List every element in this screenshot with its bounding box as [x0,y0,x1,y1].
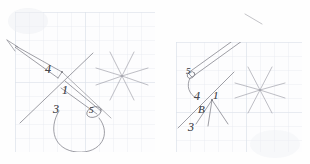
stroke-large-loop [54,111,105,152]
right-graph-panel: 5 4 1 B 3 [176,42,302,152]
overflow-needle-tail-right [245,14,262,24]
stroke-spike-lower-edge [61,88,97,114]
stroke-diagonal-rising-r [178,72,234,128]
right-sketch-strokes [176,42,302,152]
stroke-needle-upper-edge-r [188,42,256,73]
stroke-needle-lower-edge-r [192,42,260,77]
asterisk-figure-right [235,67,285,113]
stroke-hook-curve-r [188,78,196,98]
stroke-axis-lower-right [62,72,111,118]
left-sketch-strokes [15,12,155,152]
stroke-eye-ellipse-r [186,70,196,79]
stroke-fan-ray-left [196,100,212,124]
scanned-page: 4 1 3 5 [0,0,310,164]
stroke-needle-lower-edge [15,40,58,78]
node-dot-crossing-r [211,99,213,101]
left-graph-panel: 4 1 3 5 [15,12,155,152]
stroke-diagonal-rising [20,53,93,123]
stroke-fan-ray-mid [208,100,212,126]
stroke-fan-ray-right [212,100,228,124]
stroke-needle-tip-cap [58,72,62,78]
node-dot-crossing [61,71,63,73]
overflow-needle-tip-left-2 [7,40,15,51]
asterisk-figure-left [96,52,148,100]
stroke-needle-upper-edge [15,40,62,72]
stroke-needle-tip-cap-r [188,73,192,77]
